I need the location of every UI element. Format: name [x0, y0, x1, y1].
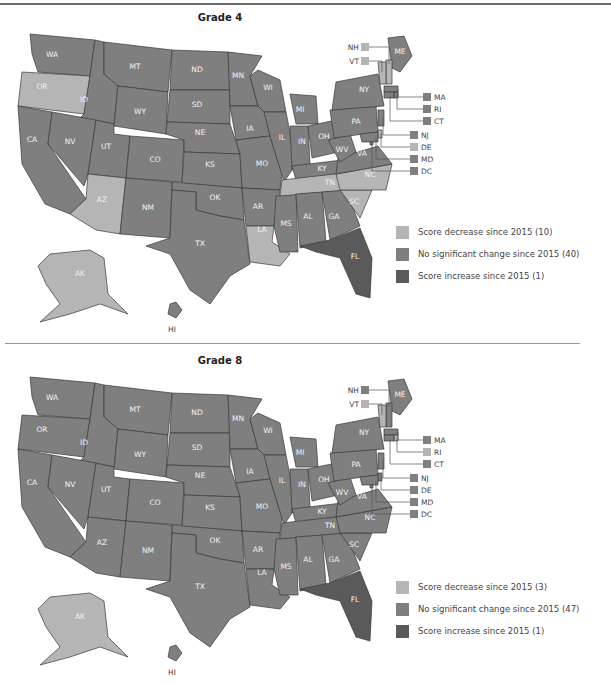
state-label-nm: NM: [142, 546, 154, 555]
legend-swatch-decrease: [396, 226, 409, 239]
state-label-id: ID: [80, 438, 88, 447]
state-label-wv: WV: [336, 145, 349, 154]
state-label-nd: ND: [191, 65, 203, 74]
state-ak: [38, 250, 128, 322]
state-label-pa: PA: [351, 117, 361, 126]
state-label-ny: NY: [359, 85, 370, 94]
callout-leader-nj: [383, 118, 410, 135]
state-label-sc: SC: [349, 197, 359, 206]
state-label-sd: SD: [192, 443, 203, 452]
callout-swatch-dc: [410, 510, 418, 518]
legend-item-decrease: Score decrease since 2015 (3): [396, 576, 579, 598]
state-label-or: OR: [36, 425, 47, 434]
callout-swatch-md: [410, 498, 418, 506]
state-hi: [168, 645, 182, 661]
callout-label-ct: CT: [434, 460, 444, 469]
callout-leader-de: [381, 134, 410, 147]
state-label-va: VA: [357, 492, 368, 501]
state-label-ar: AR: [253, 545, 263, 554]
state-label-fl: FL: [351, 252, 360, 261]
callout-label-nh: NH: [348, 43, 359, 52]
state-label-wy: WY: [134, 107, 146, 116]
callout-swatch-ma: [423, 93, 431, 101]
state-ak: [38, 593, 128, 665]
state-md: [360, 132, 378, 142]
callout-swatch-md: [410, 155, 418, 163]
callout-leader-ct: [390, 439, 423, 464]
state-label-sd: SD: [192, 100, 203, 109]
callout-swatch-ma: [423, 436, 431, 444]
callout-swatch-nh: [361, 386, 369, 394]
state-label-ky: KY: [317, 164, 327, 173]
callout-label-dc: DC: [421, 167, 432, 176]
state-label-ga: GA: [329, 555, 341, 564]
legend-swatch-decrease: [396, 581, 409, 594]
state-md: [360, 475, 378, 485]
state-label-wi: WI: [263, 426, 273, 435]
state-label-ca: CA: [27, 135, 38, 144]
state-label-mn: MN: [232, 414, 244, 423]
state-label-ak: AK: [75, 269, 86, 278]
callout-label-ma: MA: [434, 93, 446, 102]
state-label-sc: SC: [349, 540, 359, 549]
callout-label-vt: VT: [349, 57, 359, 66]
callout-swatch-de: [410, 486, 418, 494]
state-label-mi: MI: [296, 448, 305, 457]
legend-label-no-change: No significant change since 2015 (47): [418, 604, 579, 614]
state-label-nm: NM: [142, 203, 154, 212]
grade4-panel: Grade 4 WAORCAIDNVMTWYUTAZCONMNDSDNEKSOK…: [0, 0, 611, 343]
callout-leader-nj: [383, 461, 410, 478]
callout-swatch-ct: [423, 460, 431, 468]
state-label-ia: IA: [246, 467, 254, 476]
state-ri: [394, 435, 398, 441]
state-in: [290, 126, 310, 170]
callout-label-md: MD: [421, 498, 433, 507]
state-label-wa: WA: [46, 50, 59, 59]
state-label-fl: FL: [351, 595, 360, 604]
grade4-map: WAORCAIDNVMTWYUTAZCONMNDSDNEKSOKTXMNIAMO…: [0, 0, 611, 343]
callout-swatch-dc: [410, 167, 418, 175]
state-label-hi: HI: [168, 668, 176, 677]
state-label-mn: MN: [232, 71, 244, 80]
state-wa: [30, 34, 95, 76]
state-label-wi: WI: [263, 83, 273, 92]
legend-item-increase: Score increase since 2015 (1): [396, 620, 579, 642]
state-label-ks: KS: [205, 503, 215, 512]
state-ks: [182, 495, 242, 531]
state-label-ms: MS: [280, 562, 291, 571]
state-label-oh: OH: [318, 132, 330, 141]
state-label-wy: WY: [134, 450, 146, 459]
legend-swatch-increase: [396, 625, 409, 638]
state-in: [290, 469, 310, 513]
state-label-me: ME: [394, 47, 405, 56]
callout-swatch-vt: [361, 400, 369, 408]
state-label-va: VA: [357, 149, 368, 158]
state-label-ar: AR: [253, 202, 263, 211]
callout-leader-de: [381, 477, 410, 490]
state-label-nv: NV: [65, 480, 77, 489]
state-label-ks: KS: [205, 160, 215, 169]
state-label-az: AZ: [97, 195, 107, 204]
state-de: [378, 473, 382, 481]
state-label-tx: TX: [194, 239, 205, 248]
state-label-ky: KY: [317, 507, 327, 516]
legend-swatch-no-change: [396, 603, 409, 616]
callout-label-ma: MA: [434, 436, 446, 445]
state-ct: [384, 435, 394, 441]
state-ct: [384, 92, 394, 98]
callout-label-vt: VT: [349, 400, 359, 409]
state-label-mo: MO: [256, 502, 268, 511]
state-label-ut: UT: [101, 485, 111, 494]
state-label-il: IL: [279, 133, 286, 142]
state-label-ak: AK: [75, 612, 86, 621]
state-wa: [30, 377, 95, 419]
grade8-legend: Score decrease since 2015 (3) No signifi…: [396, 576, 579, 642]
state-label-ny: NY: [359, 428, 370, 437]
state-label-ca: CA: [27, 478, 38, 487]
callout-swatch-nj: [410, 131, 418, 139]
state-label-la: LA: [257, 568, 267, 577]
callout-label-nh: NH: [348, 386, 359, 395]
state-label-ok: OK: [210, 536, 222, 545]
callout-label-nj: NJ: [421, 474, 429, 483]
state-label-in: IN: [298, 137, 306, 146]
